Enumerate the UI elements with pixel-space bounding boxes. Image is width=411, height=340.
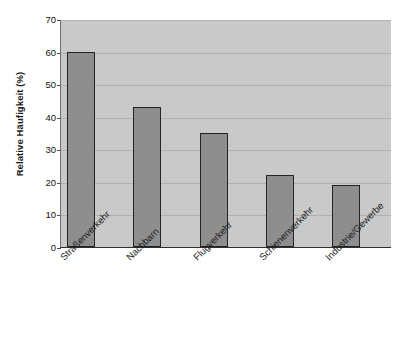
y-tick-label: 70 (28, 15, 56, 25)
bar (133, 107, 161, 247)
y-tick-label: 60 (28, 48, 56, 58)
y-axis-title: Relative Häufigkeit (%) (8, 4, 30, 244)
bar (67, 52, 95, 247)
bar-chart-figure: Relative Häufigkeit (%) 010203040506070 … (0, 0, 411, 340)
y-tick-label: 30 (28, 146, 56, 156)
y-axis-tick-labels: 010203040506070 (28, 20, 56, 248)
y-tick-label: 20 (28, 178, 56, 188)
y-tick-label: 10 (28, 211, 56, 221)
bars-layer (61, 20, 391, 247)
y-tick-label: 40 (28, 113, 56, 123)
x-axis-category-labels: StraßenverkehrNachbarnFlugverkehrSchiene… (0, 248, 411, 340)
y-tick-label: 50 (28, 80, 56, 90)
